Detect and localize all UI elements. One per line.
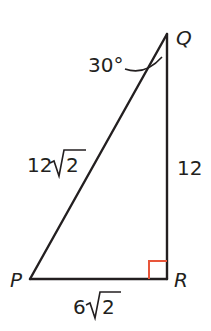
vertex-label-q: Q bbox=[176, 26, 192, 50]
side-label-pq: 12 2 bbox=[27, 150, 86, 177]
vertex-label-p: P bbox=[10, 268, 23, 292]
angle-label-q: 30° bbox=[88, 53, 123, 77]
right-angle-marker bbox=[149, 261, 167, 279]
side-label-pr-radicand: 2 bbox=[102, 295, 115, 319]
side-label-pr: 6 2 bbox=[73, 292, 121, 319]
vertex-label-r: R bbox=[174, 268, 188, 292]
triangle-diagram: Q P R 30° 12 12 2 6 2 bbox=[0, 0, 211, 331]
angle-arc-q bbox=[125, 57, 162, 71]
side-label-pq-radicand: 2 bbox=[66, 153, 79, 177]
side-label-pq-coefficient: 12 bbox=[27, 153, 52, 177]
side-label-pr-coefficient: 6 bbox=[73, 295, 86, 319]
side-label-qr: 12 bbox=[177, 156, 202, 180]
